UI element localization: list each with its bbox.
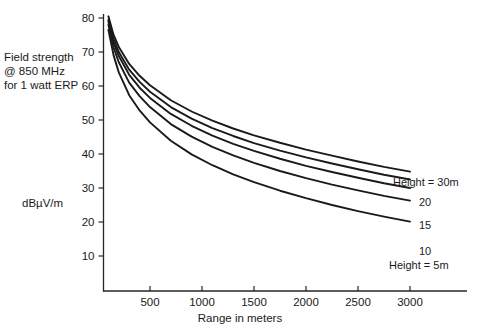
x-tick-label: 3000	[397, 296, 423, 308]
annotation-line-2: @ 850 MHz	[4, 65, 65, 77]
y-tick-label: 50	[82, 114, 95, 126]
x-tick-group	[150, 286, 410, 291]
y-tick-label: 70	[82, 46, 95, 58]
y-tick-group	[99, 18, 104, 256]
x-tick-label: 1000	[189, 296, 215, 308]
chart-left-annotation: Field strength@ 850 MHzfor 1 watt ERP	[4, 50, 78, 92]
y-tick-label: 60	[82, 80, 95, 92]
y-tick-label: 30	[82, 182, 95, 194]
annotation-line-1: Field strength	[4, 51, 74, 63]
x-tick-label: 2000	[293, 296, 319, 308]
field-strength-chart: Field strength@ 850 MHzfor 1 watt ERP dB…	[0, 0, 480, 333]
x-ticklabel-group: 50010001500200025003000	[140, 296, 422, 308]
y-axis-title: dBµV/m	[22, 196, 63, 210]
annotation-line-3: for 1 watt ERP	[4, 79, 78, 91]
x-tick-label: 1500	[241, 296, 267, 308]
x-tick-label: 2500	[345, 296, 371, 308]
curve-label-height-15: 15	[419, 219, 431, 231]
curve-5m	[108, 30, 410, 222]
y-ticklabel-group: 1020304050607080	[82, 12, 95, 262]
y-tick-label: 80	[82, 12, 95, 24]
curve-label-height-5m: Height = 5m	[389, 259, 449, 271]
curve-label-height-10: 10	[419, 245, 431, 257]
x-axis-title: Range in meters	[0, 311, 480, 325]
x-tick-label: 500	[140, 296, 159, 308]
curve-label-height-30m: Height = 30m	[393, 176, 459, 188]
curve-group	[108, 16, 410, 221]
curve-label-height-20: 20	[419, 196, 431, 208]
curve-10m	[108, 25, 410, 201]
y-tick-label: 40	[82, 148, 95, 160]
y-tick-label: 10	[82, 250, 95, 262]
y-tick-label: 20	[82, 216, 95, 228]
